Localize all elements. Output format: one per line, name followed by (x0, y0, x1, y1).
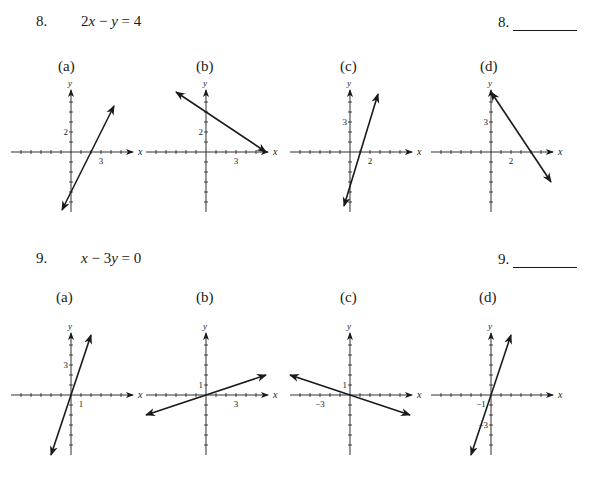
p9-graph-d[interactable]: xy−1−3 (0, 0, 590, 492)
x-axis-label: x (557, 389, 563, 400)
x-tick-label: −1 (476, 399, 486, 409)
axes: xy−1−3 (431, 321, 563, 455)
y-axis-label: y (487, 321, 492, 331)
